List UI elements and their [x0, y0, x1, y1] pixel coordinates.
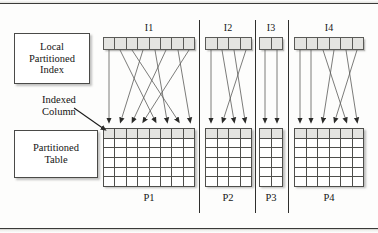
index-label-i4: I4 [309, 22, 349, 33]
table-row [103, 177, 195, 187]
index-entry-arrow [120, 50, 155, 121]
index-entry-arrow [121, 50, 143, 121]
callout-line: Partitioned [33, 142, 79, 154]
partition-divider-1 [199, 20, 200, 213]
indexed-column-leader-arrow [74, 108, 104, 129]
partition-table-p1[interactable] [103, 128, 195, 186]
table-cell [352, 176, 365, 187]
index-entry-arrow [346, 50, 357, 121]
table-cell [271, 176, 284, 187]
annotation-indexed-column: Indexed Column [42, 94, 76, 118]
callout-partitioned-table: Partitioned Table [14, 130, 98, 178]
index-entry-arrow [132, 50, 178, 121]
index-entry-arrow [223, 50, 246, 121]
partition-table-p3[interactable] [259, 128, 283, 186]
callout-line: Index [29, 64, 75, 76]
index-label-i2: I2 [208, 22, 248, 33]
index-entry-arrow [178, 50, 190, 121]
annotation-line: Column [42, 106, 76, 118]
index-bar-i2[interactable] [205, 37, 252, 50]
partition-table-p2[interactable] [205, 128, 252, 186]
table-row [294, 177, 364, 187]
index-entry-arrow [133, 50, 166, 121]
index-entry-arrow [155, 50, 167, 121]
index-cell[interactable] [240, 37, 253, 50]
index-entry-arrow [144, 50, 189, 121]
partition-label-p2: P2 [208, 192, 248, 203]
index-entry-arrow [222, 50, 234, 121]
table-row [205, 177, 252, 187]
callout-line: Local [29, 41, 75, 53]
annotation-line: Indexed [42, 94, 76, 106]
callout-line: Partitioned [29, 53, 75, 65]
table-row [259, 177, 283, 187]
index-label-i1: I1 [129, 22, 169, 33]
index-entry-arrow [335, 50, 357, 121]
table-cell [183, 176, 195, 187]
page-frame-top-rule [0, 3, 378, 4]
partition-divider-3 [288, 20, 289, 213]
index-entry-arrow [234, 50, 245, 121]
table-cell [240, 176, 253, 187]
diagram-canvas: Local Partitioned Index Indexed Column P… [0, 0, 378, 233]
index-cell[interactable] [183, 37, 195, 50]
partition-table-p4[interactable] [294, 128, 364, 186]
index-cell[interactable] [271, 37, 284, 50]
page-frame-bottom-rule [0, 228, 378, 229]
index-bar-i4[interactable] [294, 37, 364, 50]
partition-label-p4: P4 [309, 192, 349, 203]
partition-label-p3: P3 [251, 192, 291, 203]
partition-label-p1: P1 [129, 192, 169, 203]
index-cell[interactable] [352, 37, 365, 50]
index-label-i3: I3 [251, 22, 291, 33]
index-bar-i3[interactable] [259, 37, 283, 50]
callout-local-partitioned-index: Local Partitioned Index [14, 33, 90, 84]
index-entry-arrow [323, 50, 334, 121]
index-bar-i1[interactable] [103, 37, 195, 50]
index-entry-arrow [323, 50, 346, 121]
partition-divider-2 [255, 20, 256, 213]
callout-line: Table [33, 154, 79, 166]
